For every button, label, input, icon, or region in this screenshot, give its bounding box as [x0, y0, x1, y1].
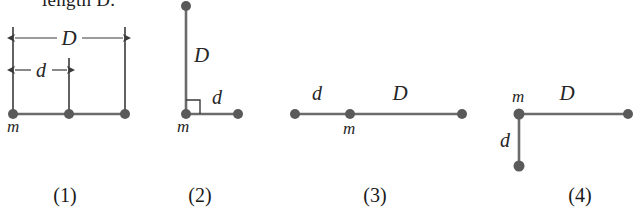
panel-4-mass-dot-right: [623, 109, 633, 119]
panel-4-mass-dot-corner: [514, 109, 525, 120]
panel-2-label-m: m: [177, 117, 189, 136]
panel-1-mass-dot-middle: [64, 109, 74, 119]
panel-1-label-d: d: [36, 59, 47, 81]
panel-1-label-m: m: [7, 117, 19, 136]
panel-1-dimension-D: D: [15, 26, 123, 50]
panel-2-label-D: D: [193, 43, 209, 67]
panel-2-label-d: d: [212, 86, 223, 108]
caption-3: (3): [363, 184, 386, 207]
physics-figure-four-mass-configurations: length D. D: [0, 0, 634, 217]
panel-2-mass-dot-top: [181, 1, 191, 11]
panel-3-label-d: d: [312, 82, 323, 104]
panel-1-mass-dot-right: [120, 109, 130, 119]
panel-4-group: D d m: [500, 81, 633, 172]
panel-3-group: d D m: [290, 81, 467, 138]
panel-3-mass-dot-middle: [345, 109, 355, 119]
panel-3-mass-dot-left: [290, 109, 300, 119]
panel-3-mass-dot-right: [457, 109, 467, 119]
panel-4-mass-dot-bottom: [514, 161, 525, 172]
panel-1-label-D: D: [60, 26, 76, 50]
panel-4-label-D: D: [558, 81, 574, 105]
diagram-canvas: D d m D d m: [0, 0, 634, 217]
caption-4: (4): [568, 184, 591, 207]
panel-4-label-d: d: [500, 129, 511, 151]
panel-1-group: D d m: [7, 26, 130, 136]
captions-row: (1) (2) (3) (4): [53, 184, 591, 207]
panel-3-label-D: D: [391, 81, 407, 105]
caption-1: (1): [53, 184, 76, 207]
caption-2: (2): [188, 184, 211, 207]
panel-3-label-m: m: [343, 119, 355, 138]
panel-2-mass-dot-right: [233, 109, 243, 119]
panel-4-label-m: m: [512, 87, 524, 106]
panel-1-dimension-d: d: [15, 59, 67, 81]
panel-2-group: D d m: [177, 1, 243, 136]
